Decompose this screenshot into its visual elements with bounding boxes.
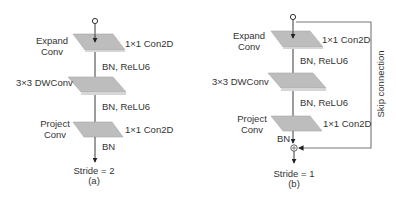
dw-after-label: BN, ReLU6 xyxy=(102,101,150,112)
project-op-label: 1×1 Con2D xyxy=(323,118,371,129)
panel-b: Expand Conv 1×1 Con2D BN, ReLU6 3×3 DWCo… xyxy=(212,14,386,189)
project-op-label: 1×1 Con2D xyxy=(125,124,173,135)
caption-b: (b) xyxy=(288,178,300,189)
expand-label: Expand xyxy=(36,35,68,46)
expand-label-2: Conv xyxy=(41,46,63,57)
project-label-2: Conv xyxy=(241,124,263,135)
dwconv-layer xyxy=(68,77,126,92)
input-node-icon xyxy=(92,18,97,23)
caption-a: (a) xyxy=(88,175,100,186)
input-node-icon xyxy=(290,14,295,19)
expand-after-label: BN, ReLU6 xyxy=(300,55,348,66)
inverted-residual-diagram: Expand Conv 1×1 Con2D BN, ReLU6 3×3 DWCo… xyxy=(0,0,396,202)
project-after-label: BN xyxy=(102,141,115,152)
skip-connection-label: Skip connection xyxy=(375,50,386,117)
project-after-label: BN xyxy=(277,133,290,144)
panel-a: Expand Conv 1×1 Con2D BN, ReLU6 3×3 DWCo… xyxy=(16,18,173,186)
project-conv-layer xyxy=(271,116,322,131)
dwconv-label: 3×3 DWConv xyxy=(16,77,73,88)
expand-conv-layer xyxy=(73,34,125,50)
expand-label: Expand xyxy=(233,30,265,41)
dwconv-layer xyxy=(268,73,326,88)
project-label: Project xyxy=(40,118,70,129)
dw-after-label: BN, ReLU6 xyxy=(300,97,348,108)
expand-op-label: 1×1 Con2D xyxy=(125,38,173,49)
expand-conv-layer xyxy=(271,31,323,47)
expand-after-label: BN, ReLU6 xyxy=(102,61,150,72)
project-conv-layer xyxy=(73,122,123,137)
project-label-2: Conv xyxy=(44,129,66,140)
expand-label-2: Conv xyxy=(238,41,260,52)
circled-plus-icon xyxy=(291,145,297,151)
project-label: Project xyxy=(237,113,267,124)
expand-op-label: 1×1 Con2D xyxy=(322,34,370,45)
dwconv-label: 3×3 DWConv xyxy=(212,76,269,87)
